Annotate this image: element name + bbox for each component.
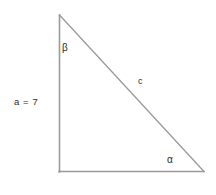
- geometry-figure-canvas: β c α a = 7: [0, 0, 216, 195]
- angle-label-beta: β: [62, 43, 68, 53]
- hypotenuse-line: [60, 15, 205, 172]
- side-label-hypotenuse-c: c: [138, 76, 143, 86]
- angle-label-alpha: α: [167, 155, 173, 165]
- side-label-a-equals-7: a = 7: [14, 97, 38, 107]
